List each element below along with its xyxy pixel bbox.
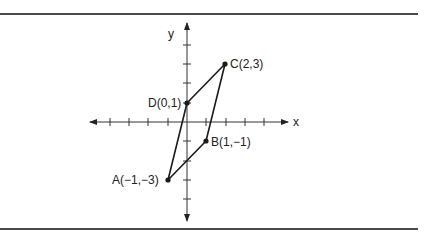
point-c-label: C(2,3) <box>230 57 263 71</box>
coordinate-plane: x y A(−1,−3) B(1,−1) C(2,3) D(0,1) <box>0 0 434 235</box>
point-a-label: A(−1,−3) <box>112 173 159 187</box>
point-c: C(2,3) <box>222 57 263 71</box>
point-d-label: D(0,1) <box>148 96 181 110</box>
point-b: B(1,−1) <box>203 135 250 149</box>
x-axis: x <box>90 115 299 129</box>
point-a: A(−1,−3) <box>112 173 171 187</box>
x-axis-label: x <box>293 115 299 129</box>
point-b-label: B(1,−1) <box>211 135 251 149</box>
y-axis-label: y <box>168 27 174 41</box>
